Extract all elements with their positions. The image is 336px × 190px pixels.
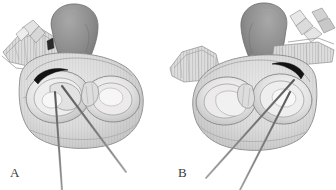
figure-panel-b: B xyxy=(168,0,336,190)
figure-container: A xyxy=(0,0,336,190)
panel-label-a: A xyxy=(10,166,20,179)
panel-b-bone-segments xyxy=(288,8,335,44)
panel-a-illustration xyxy=(0,0,168,190)
panel-b-illustration xyxy=(168,0,336,190)
panel-label-b: B xyxy=(178,166,187,179)
figure-panel-a: A xyxy=(0,0,168,190)
